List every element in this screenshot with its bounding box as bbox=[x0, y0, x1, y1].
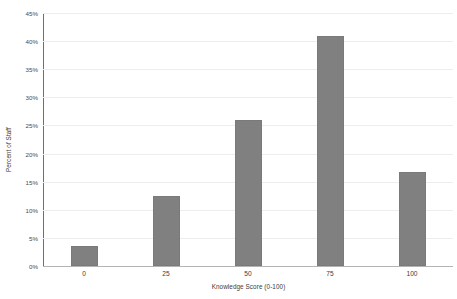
x-tick-label: 50 bbox=[228, 270, 268, 277]
bar bbox=[153, 196, 180, 266]
y-tick-label: 20% bbox=[14, 150, 38, 157]
y-tick-label: 15% bbox=[14, 178, 38, 185]
y-tick-label: 0% bbox=[14, 263, 38, 270]
gridline bbox=[43, 13, 453, 14]
plot-area bbox=[43, 13, 453, 266]
y-tick-label: 45% bbox=[14, 10, 38, 17]
y-tick-label: 30% bbox=[14, 94, 38, 101]
y-tick-label: 25% bbox=[14, 122, 38, 129]
x-axis-title: Knowledge Score (0-100) bbox=[40, 283, 457, 290]
bar bbox=[317, 36, 344, 267]
bar bbox=[235, 120, 262, 266]
x-tick-label: 0 bbox=[64, 270, 104, 277]
gridline bbox=[43, 41, 453, 42]
x-tick-label: 100 bbox=[392, 270, 432, 277]
y-tick-label: 35% bbox=[14, 66, 38, 73]
y-tick-label: 40% bbox=[14, 38, 38, 45]
gridline bbox=[43, 69, 453, 70]
bar bbox=[399, 172, 426, 266]
gridline bbox=[43, 97, 453, 98]
y-tick-label: 10% bbox=[14, 206, 38, 213]
bar-chart: Percent of Staff 0%5%10%15%20%25%30%35%4… bbox=[0, 0, 457, 299]
x-axis-baseline bbox=[43, 266, 453, 267]
x-tick-label: 25 bbox=[146, 270, 186, 277]
y-tick-label: 5% bbox=[14, 234, 38, 241]
bar bbox=[71, 246, 98, 266]
x-tick-label: 75 bbox=[310, 270, 350, 277]
